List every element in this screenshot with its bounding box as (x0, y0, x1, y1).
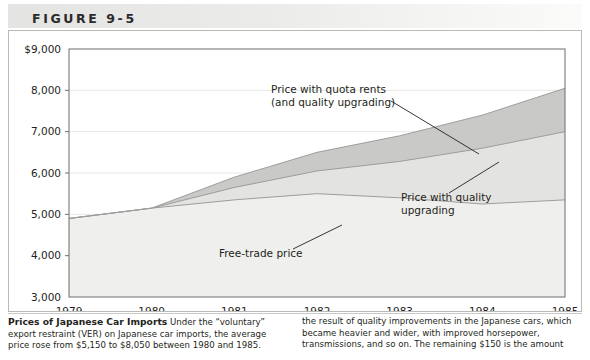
y-axis-labels: $9,0008,0007,0006,0005,0004,0003,000 (24, 43, 61, 303)
y-axis-tick-label: $9,000 (24, 43, 61, 55)
y-axis-tick-label: 7,000 (31, 125, 61, 137)
annotation-quality-upgrading: Price with quality (401, 191, 492, 203)
y-axis-tick-label: 8,000 (31, 84, 61, 96)
chart-frame: $9,0008,0007,0006,0005,0004,0003,000 197… (8, 30, 582, 312)
x-axis-tick-label: 1983 (386, 305, 413, 311)
caption-right-text: the result of quality improvements in th… (302, 316, 572, 349)
figure-header-bar: FIGURE 9-5 (8, 4, 582, 28)
caption-title: Prices of Japanese Car Imports (8, 316, 167, 327)
y-axis-tick-label: 5,000 (31, 208, 61, 220)
y-axis-tick-label: 6,000 (31, 167, 61, 179)
x-axis-tick-label: 1980 (138, 305, 165, 311)
price-area-chart: $9,0008,0007,0006,0005,0004,0003,000 197… (9, 31, 581, 311)
y-axis-tick-label: 3,000 (31, 291, 61, 303)
figure-caption: Prices of Japanese Car Imports Under the… (8, 316, 582, 360)
annotation-quota-rents: Price with quota rents (271, 83, 386, 95)
caption-divider (8, 313, 582, 314)
x-axis-tick-label: 1981 (221, 305, 248, 311)
x-axis-tick-label: 1985 (552, 305, 579, 311)
annotation-free-trade: Free-trade price (219, 247, 303, 259)
annotation-quota-rents-line2: (and quality upgrading) (271, 96, 395, 108)
figure-panel: FIGURE 9-5 $9,0008,0007,0006,0005,0004,0… (0, 0, 590, 360)
caption-left-column: Prices of Japanese Car Imports Under the… (8, 316, 288, 360)
figure-number: FIGURE 9-5 (32, 11, 137, 26)
x-axis-tick-label: 1979 (56, 305, 83, 311)
caption-right-column: the result of quality improvements in th… (302, 316, 582, 360)
x-axis-labels: 1979198019811982198319841985 (56, 305, 579, 311)
y-axis-ticks (65, 90, 69, 255)
x-axis-tick-label: 1984 (469, 305, 496, 311)
y-axis-tick-label: 4,000 (31, 249, 61, 261)
annotation-quality-upgrading-line2: upgrading (401, 204, 455, 216)
x-axis-tick-label: 1982 (304, 305, 331, 311)
